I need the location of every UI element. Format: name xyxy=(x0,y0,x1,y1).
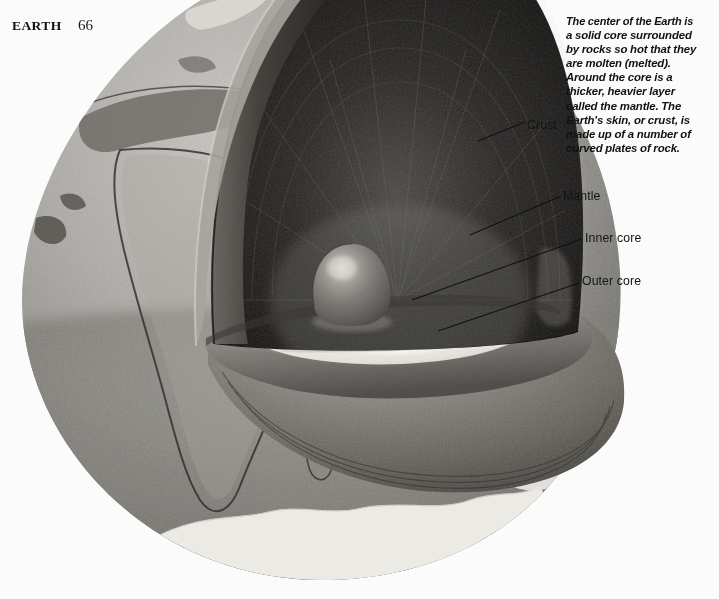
caption-text: The center of the Earth is a solid core … xyxy=(566,14,718,155)
caption-line: called the mantle. The xyxy=(566,99,718,113)
caption-line: thicker, heavier layer xyxy=(566,84,718,98)
caption-line: curved plates of rock. xyxy=(566,141,718,155)
label-mantle: Mantle xyxy=(563,189,601,203)
caption-line: by rocks so hot that they xyxy=(566,42,718,56)
caption-line: Around the core is a xyxy=(566,70,718,84)
page-canvas: EARTH 66 The center of the Earth is a so… xyxy=(0,0,719,599)
caption-line: a solid core surrounded xyxy=(566,28,718,42)
caption-line: made up of a number of xyxy=(566,127,718,141)
caption-line: The center of the Earth is xyxy=(566,14,718,28)
label-outer-core: Outer core xyxy=(582,274,641,288)
caption-line: Earth's skin, or crust, is xyxy=(566,113,718,127)
label-crust: Crust xyxy=(527,118,557,132)
label-inner-core: Inner core xyxy=(585,231,641,245)
caption-line: are molten (melted). xyxy=(566,56,718,70)
